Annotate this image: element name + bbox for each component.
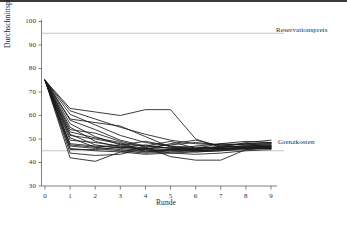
- x-tick-label: 2: [87, 192, 103, 200]
- series-line: [45, 80, 271, 151]
- x-axis-label: Runde: [126, 198, 206, 207]
- series-line: [45, 80, 271, 151]
- x-tick-label: 8: [238, 192, 254, 200]
- series-line: [45, 80, 271, 145]
- reservationspreis-annotation: Reservationspreis: [276, 26, 327, 34]
- reference-lines-group: [42, 33, 285, 151]
- x-tick-label: 7: [213, 192, 229, 200]
- y-tick-label: 70: [14, 88, 36, 96]
- y-tick-label: 90: [14, 41, 36, 49]
- y-tick-label: 40: [14, 158, 36, 166]
- series-line: [45, 80, 271, 149]
- axes-group: [39, 20, 278, 190]
- series-line: [45, 80, 271, 151]
- data-series-group: [45, 80, 271, 161]
- y-tick-label: 100: [14, 17, 36, 25]
- x-tick-label: 9: [263, 192, 279, 200]
- x-tick-label: 1: [62, 192, 78, 200]
- y-tick-label: 80: [14, 64, 36, 72]
- figure-container: Durchschnittspreis in Taler 304050607080…: [0, 0, 347, 225]
- series-line: [45, 80, 271, 149]
- x-tick-label: 0: [37, 192, 53, 200]
- grenzkosten-annotation: Grenzkosten: [278, 138, 314, 146]
- series-line: [45, 80, 271, 154]
- y-tick-label: 50: [14, 135, 36, 143]
- y-tick-label: 60: [14, 111, 36, 119]
- y-tick-label: 30: [14, 182, 36, 190]
- series-line: [45, 80, 271, 149]
